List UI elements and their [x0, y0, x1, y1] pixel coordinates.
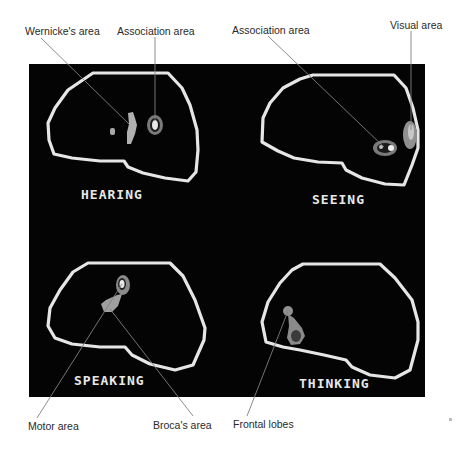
leader-lines: [37, 31, 411, 418]
label-brocas-area: Broca's area: [153, 420, 212, 431]
brain-outline-hearing: [48, 73, 198, 181]
leader-association-seeing: [268, 36, 384, 147]
activity-thinking: [283, 306, 305, 345]
activity-seeing: [373, 121, 417, 156]
brain-outline-thinking: [262, 264, 418, 378]
label-frontal-lobes: Frontal lobes: [233, 419, 294, 430]
diagram-graphics: [0, 0, 461, 457]
scan-artifact-mark: [449, 418, 452, 421]
leader-frontal: [247, 311, 288, 416]
brain-outline-seeing: [262, 75, 418, 185]
leader-motor: [37, 284, 122, 418]
leader-broca: [110, 309, 193, 416]
label-motor-area: Motor area: [28, 421, 79, 432]
